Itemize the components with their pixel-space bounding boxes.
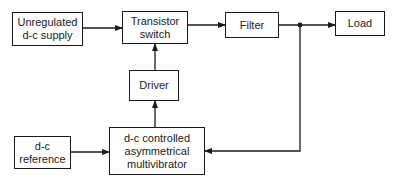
block-load: Load — [335, 11, 385, 36]
block-unregulated-supply: Unregulated d-c supply — [12, 12, 83, 46]
block-dc-reference: d-c reference — [14, 136, 71, 169]
block-filter: Filter — [225, 12, 279, 38]
block-label: d-c reference — [19, 140, 65, 166]
block-label: Unregulated d-c supply — [18, 16, 78, 42]
block-label: Load — [348, 17, 372, 30]
block-label: Filter — [240, 19, 264, 32]
block-label: d-c controlled asymmetrical multivibrato… — [124, 132, 190, 171]
block-label: Driver — [139, 79, 168, 92]
block-driver: Driver — [129, 70, 179, 101]
block-label: Transistor switch — [131, 15, 180, 41]
block-transistor-switch: Transistor switch — [122, 11, 188, 44]
feedback-line — [205, 25, 300, 151]
junction-dot — [298, 23, 303, 28]
block-multivibrator: d-c controlled asymmetrical multivibrato… — [109, 127, 205, 175]
